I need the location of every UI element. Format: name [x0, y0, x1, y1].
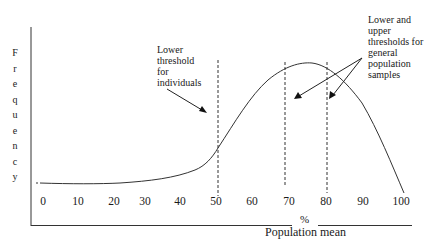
- x-tick-60: 60: [246, 195, 258, 207]
- x-axis-unit: %: [300, 213, 309, 225]
- ylabel-letter: e: [11, 76, 19, 92]
- ylabel-letter: c: [11, 154, 19, 170]
- x-tick-40: 40: [174, 195, 186, 207]
- arrowhead-population-lower: [294, 92, 302, 99]
- x-tick-100: 100: [392, 195, 409, 207]
- distribution-curve: [40, 63, 404, 193]
- x-tick-70: 70: [283, 195, 295, 207]
- arrowhead-individuals: [199, 106, 207, 113]
- x-tick-10: 10: [72, 195, 84, 207]
- x-tick-30: 30: [139, 195, 151, 207]
- annotation-population: Lower and upper thresholds for general p…: [368, 14, 423, 80]
- ylabel-letter: q: [11, 92, 19, 108]
- ylabel-letter: F: [11, 45, 19, 61]
- x-tick-80: 80: [320, 195, 332, 207]
- y-axis-label: F r e q u e n c y: [11, 45, 19, 185]
- arrow-population-upper: [333, 58, 362, 95]
- x-tick-0: 0: [40, 195, 46, 207]
- ylabel-letter: u: [11, 107, 19, 123]
- ylabel-letter: n: [11, 138, 19, 154]
- x-tick-50: 50: [210, 195, 222, 207]
- arrow-individuals: [167, 89, 202, 110]
- x-tick-90: 90: [357, 195, 369, 207]
- x-tick-20: 20: [108, 195, 120, 207]
- annotation-individuals: Lower threshold for individuals: [157, 44, 201, 88]
- x-axis-label: Population mean: [265, 225, 346, 239]
- ylabel-letter: y: [11, 169, 19, 185]
- ylabel-letter: e: [11, 123, 19, 139]
- ylabel-letter: r: [11, 61, 19, 77]
